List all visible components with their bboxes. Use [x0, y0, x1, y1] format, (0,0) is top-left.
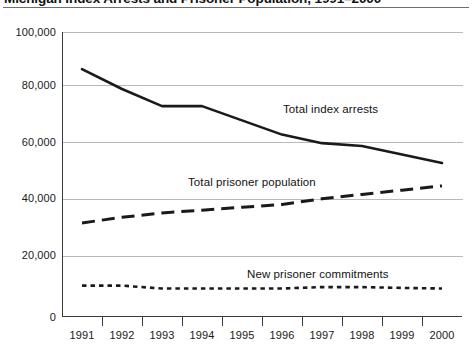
- chart-figure: Michigan Index Arrests and Prisoner Popu…: [0, 0, 475, 351]
- x-axis-tick-6: [302, 317, 303, 326]
- x-axis-tick-5: [262, 317, 263, 326]
- y-axis-tick-label-80000: 80,000: [22, 79, 56, 91]
- y-axis-tick-label-60000: 60,000: [22, 136, 56, 148]
- x-axis-tick-7: [342, 317, 343, 326]
- x-axis-label-1998: 1998: [340, 329, 384, 341]
- x-axis-label-1997: 1997: [300, 329, 344, 341]
- gridline-80000: [63, 85, 463, 86]
- x-axis-tick-3: [182, 317, 183, 326]
- x-axis-label-1999: 1999: [380, 329, 424, 341]
- x-axis-label-1992: 1992: [100, 329, 144, 341]
- x-axis-label-1995: 1995: [220, 329, 264, 341]
- x-axis-label-1994: 1994: [180, 329, 224, 341]
- title-divider: [3, 7, 469, 8]
- x-axis-tick-1: [102, 317, 103, 326]
- series-annotation-new-prisoner-commitments: New prisoner commitments: [247, 268, 389, 280]
- gridline-20000: [63, 256, 463, 257]
- y-axis-tick-label-20000: 20,000: [22, 249, 56, 261]
- x-axis-label-2000: 2000: [420, 329, 464, 341]
- y-axis-tick-label-0: 0: [50, 311, 56, 323]
- series-annotation-total-index-arrests: Total index arrests: [283, 103, 378, 115]
- x-axis-tick-8: [382, 317, 383, 326]
- x-axis-label-1996: 1996: [260, 329, 304, 341]
- x-axis-label-1991: 1991: [60, 329, 104, 341]
- gridline-60000: [63, 142, 463, 143]
- y-axis-tick-label-100000: 100,000: [16, 26, 56, 38]
- gridline-40000: [63, 199, 463, 200]
- x-axis-tick-9: [422, 317, 423, 326]
- gridline-100000: [63, 32, 463, 33]
- x-axis-tick-2: [142, 317, 143, 326]
- series-annotation-total-prisoner-population: Total prisoner population: [188, 176, 316, 188]
- chart-title: Michigan Index Arrests and Prisoner Popu…: [4, 0, 472, 6]
- x-axis-tick-4: [222, 317, 223, 326]
- y-axis-tick-label-40000: 40,000: [22, 192, 56, 204]
- x-axis-label-1993: 1993: [140, 329, 184, 341]
